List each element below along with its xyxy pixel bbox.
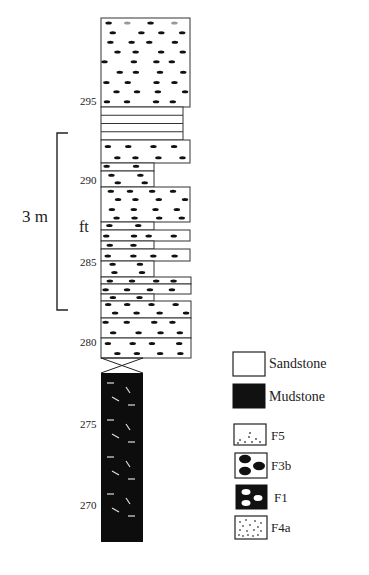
- bed-sandstone: [101, 171, 154, 187]
- legend-item-sandstone: Sandstone: [233, 352, 327, 376]
- bed-sandstone: [101, 301, 191, 318]
- bed-sandstone: [101, 284, 191, 294]
- f5-swatch: [234, 424, 266, 445]
- legend: Sandstone Mudstone F5 F3b: [233, 352, 327, 539]
- bed-sandstone: [101, 338, 191, 358]
- bed-sandstone: [101, 261, 154, 277]
- legend-item-mudstone: Mudstone: [233, 384, 325, 408]
- depth-tick-label: 280: [80, 336, 97, 348]
- f1-swatch: [236, 485, 267, 509]
- stratigraphic-column-figure: 3 m ft 295290285280275270 Sandstone Muds…: [0, 0, 369, 575]
- lithology-column: [101, 18, 191, 542]
- bed-sandstone: [101, 18, 190, 107]
- legend-item-f1: F1: [236, 485, 288, 509]
- bed-sandstone: [101, 187, 190, 222]
- depth-tick-label: 295: [80, 95, 97, 107]
- legend-item-f4a: F4a: [235, 516, 291, 539]
- bed-contact: [101, 358, 143, 373]
- depth-tick-label: 275: [80, 418, 97, 430]
- bed-sandstone: [101, 318, 191, 338]
- legend-label-f5: F5: [271, 428, 285, 443]
- legend-item-f5: F5: [234, 424, 285, 445]
- bed-sandstone: [101, 277, 191, 284]
- depth-tick-label: 285: [80, 256, 97, 268]
- bed-sandstone: [101, 249, 190, 261]
- bed-sandstone: [101, 294, 154, 301]
- depth-axis: 295290285280275270: [80, 95, 97, 511]
- depth-tick-label: 290: [80, 174, 97, 186]
- f4a-swatch: [235, 516, 267, 539]
- bed-sandstone: [101, 230, 190, 241]
- legend-label-f4a: F4a: [271, 520, 291, 535]
- scale-bar-label: 3 m: [22, 207, 48, 226]
- sandstone-swatch: [233, 352, 265, 376]
- bed-sandstone: [101, 222, 154, 230]
- bed-sandstone: [101, 163, 154, 171]
- legend-label-f3b: F3b: [271, 458, 291, 473]
- depth-tick-label: 270: [80, 499, 97, 511]
- legend-label-mudstone: Mudstone: [269, 389, 325, 404]
- depth-unit-label: ft: [79, 218, 89, 235]
- legend-label-sandstone: Sandstone: [269, 356, 327, 371]
- bed-laminated: [101, 107, 183, 140]
- bed-sandstone: [101, 241, 154, 249]
- legend-item-f3b: F3b: [235, 453, 291, 478]
- legend-label-f1: F1: [274, 490, 288, 505]
- bed-sandstone: [101, 140, 190, 163]
- mudstone-swatch: [233, 384, 265, 408]
- scale-bar: [57, 133, 68, 310]
- bed-mudstone: [101, 373, 143, 542]
